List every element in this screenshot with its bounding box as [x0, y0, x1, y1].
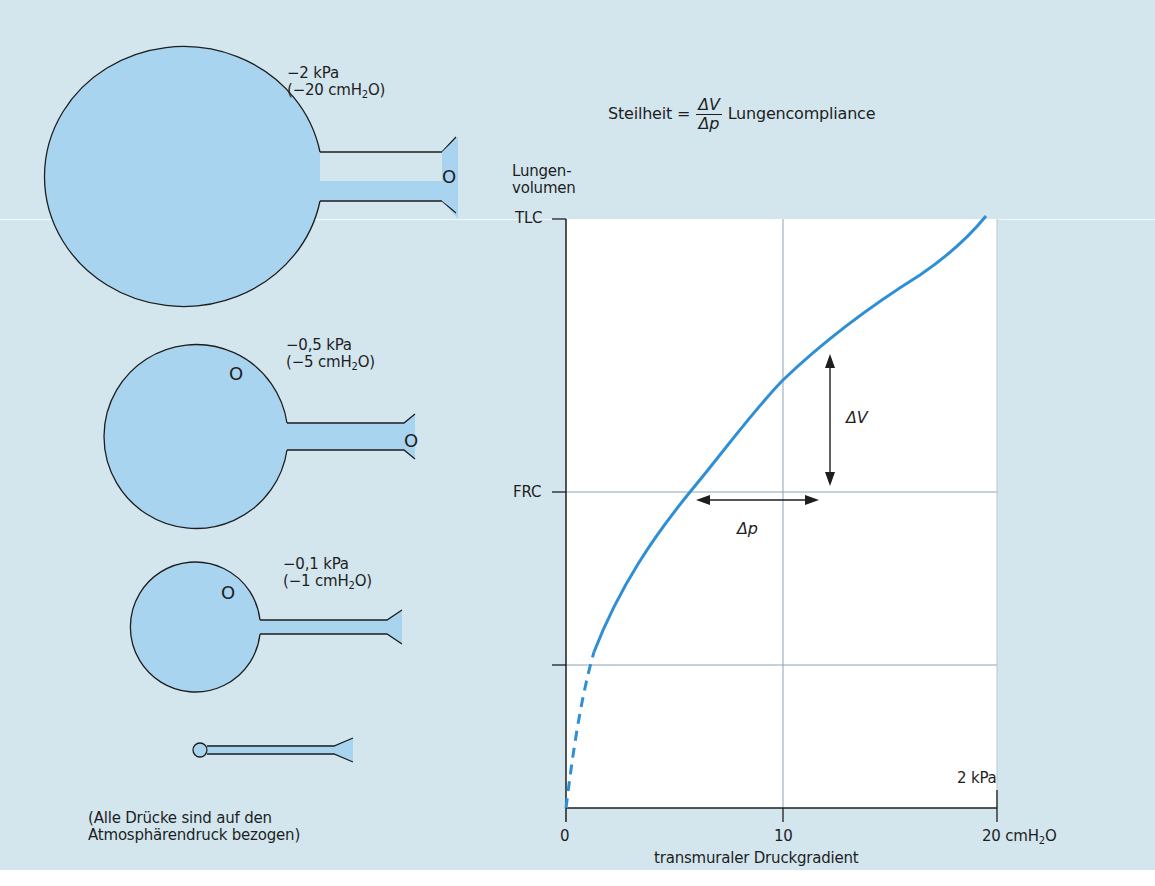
pressure-kpa: −2 kPa [287, 65, 385, 82]
pressure-cmh2o: (−1 cmH2O) [283, 573, 372, 590]
y-tick-frc: FRC [513, 484, 541, 501]
delta-p-label: Δp [737, 520, 758, 537]
x-tick-0: 0 [560, 828, 569, 845]
formula-suffix: Lungencompliance [728, 104, 876, 123]
compliance-chart [552, 216, 997, 822]
balloon-medium [104, 344, 415, 528]
x-secondary-unit: 2 kPa [957, 770, 997, 787]
y-axis-label: Lungen- volumen [512, 163, 576, 197]
x-tick-10: 10 [774, 828, 793, 845]
formula-denominator: Δp [696, 115, 722, 133]
formula-numerator: ΔV [696, 96, 722, 115]
pressure-marker-airway: O [404, 432, 418, 450]
pressure-marker-alveolar: O [221, 584, 235, 602]
pressure-cmh2o: (−20 cmH2O) [287, 82, 385, 99]
formula-fraction: ΔVΔp [696, 96, 722, 133]
pressure-marker-alveolar: O [229, 365, 243, 383]
balloon-large-label: −2 kPa (−20 cmH2O) [287, 65, 385, 99]
delta-v-label: ΔV [846, 409, 868, 426]
balloon-large [44, 46, 458, 306]
y-tick-tlc: TLC [515, 210, 542, 227]
balloon-medium-label: −0,5 kPa (−5 cmH2O) [286, 337, 375, 371]
footnote: (Alle Drücke sind auf den Atmosphärendru… [88, 810, 300, 844]
x-tick-20: 20 cmH2O [982, 828, 1057, 845]
plot-area [566, 219, 997, 808]
formula-prefix: Steilheit = [608, 104, 690, 123]
pressure-marker-airway: O [442, 168, 456, 186]
pressure-kpa: −0,5 kPa [286, 337, 375, 354]
compliance-formula: Steilheit =ΔVΔpLungencompliance [608, 96, 875, 133]
figure-graphics [0, 0, 1155, 886]
balloon-collapsed [193, 738, 353, 762]
pressure-cmh2o: (−5 cmH2O) [286, 354, 375, 371]
pressure-kpa: −0,1 kPa [283, 556, 372, 573]
balloon-small-label: −0,1 kPa (−1 cmH2O) [283, 556, 372, 590]
x-axis-label: transmuraler Druckgradient [654, 850, 859, 867]
